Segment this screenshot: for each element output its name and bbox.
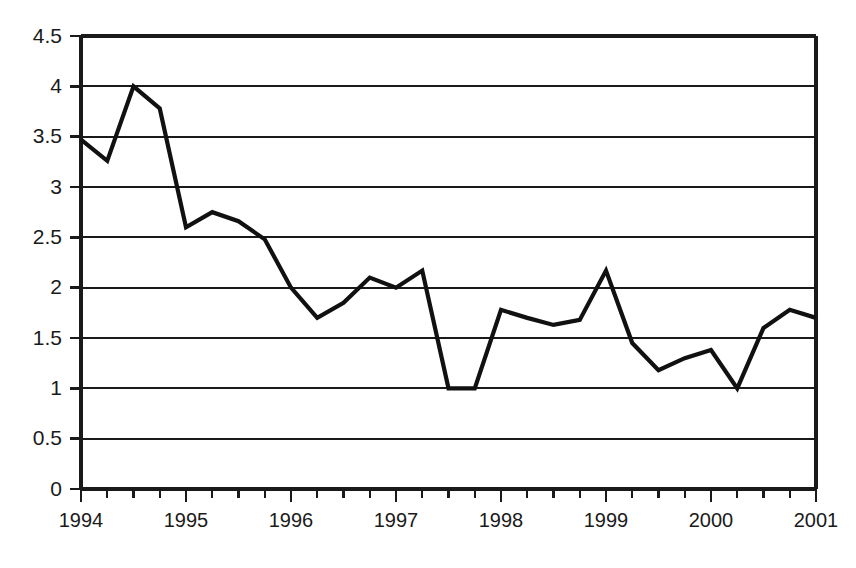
y-tick-label: 1 (50, 376, 62, 399)
y-tick-label: 0 (50, 477, 62, 500)
x-tick-label: 1995 (164, 509, 209, 531)
gridlines-group (81, 36, 816, 439)
y-tick-label: 3 (50, 175, 62, 198)
x-tick-label: 2001 (794, 509, 839, 531)
y-axis-tick-labels: 00.511.522.533.544.5 (33, 24, 63, 500)
y-tick-label: 4.5 (33, 24, 62, 47)
y-tick-marks-group (70, 36, 81, 489)
y-tick-label: 3.5 (33, 124, 62, 147)
x-tick-label: 1994 (59, 509, 104, 531)
y-tick-label: 2.5 (33, 225, 62, 248)
x-tick-label: 1998 (479, 509, 524, 531)
x-tick-label: 1997 (374, 509, 419, 531)
axes-group (81, 36, 816, 489)
chart-figure: 00.511.522.533.544.5 1994199519961997199… (0, 0, 856, 568)
y-tick-label: 4 (50, 74, 62, 97)
x-tick-label: 2000 (689, 509, 734, 531)
x-axis-tick-labels: 19941995199619971998199920002001 (59, 509, 839, 531)
line-chart: 00.511.522.533.544.5 1994199519961997199… (0, 0, 856, 568)
y-tick-label: 0.5 (33, 426, 62, 449)
y-tick-label: 2 (50, 275, 62, 298)
x-tick-label: 1999 (584, 509, 629, 531)
x-tick-label: 1996 (269, 509, 314, 531)
y-tick-label: 1.5 (33, 326, 62, 349)
